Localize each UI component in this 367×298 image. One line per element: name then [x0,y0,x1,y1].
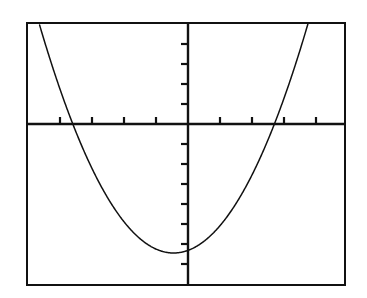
calculator-screen-border [26,22,346,286]
chart-equation-readout: y = 0.64x^2 + 0.58x - 6.32 [0,0,1,1]
calculator-screenshot: y = 0.64x^2 + 0.58x - 6.32 [0,0,367,298]
chart-title [0,0,1,1]
